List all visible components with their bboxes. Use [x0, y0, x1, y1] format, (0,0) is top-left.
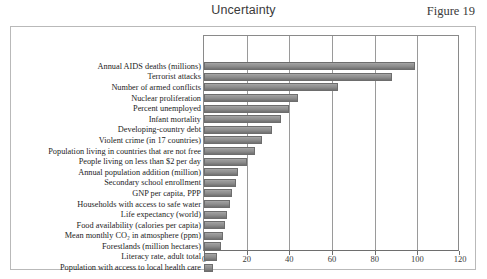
bar [204, 105, 289, 113]
bar-row: Terrorist attacks [11, 72, 477, 83]
bar-category-label: Life expectancy (world) [0, 210, 201, 219]
bar-category-label: Population living in countries that are … [0, 147, 201, 156]
bar-category-label: Secondary school enrollment [0, 178, 201, 187]
bar-row: Households with access to safe water [11, 199, 477, 210]
bar-category-label: Forestlands (million hectares) [0, 242, 201, 251]
bar [204, 168, 238, 176]
figure-number: Figure 19 [427, 4, 475, 19]
bar [204, 83, 338, 91]
chart-header: Uncertainty Figure 19 [0, 0, 487, 26]
bar-row: Mean monthly CO₂ in atmosphere (ppm) [11, 231, 477, 242]
bar [204, 211, 227, 219]
bar-category-label: Annual population addition (million) [0, 168, 201, 177]
bar-category-label: Literacy rate, adult total [0, 252, 201, 261]
bar-category-label: GNP per capita, PPP [0, 189, 201, 198]
bar-category-label: Number of armed conflicts [0, 83, 201, 92]
bar [204, 73, 392, 81]
bar [204, 264, 213, 272]
bar-row: Literacy rate, adult total [11, 252, 477, 263]
bar-category-label: Food availability (calories per capita) [0, 221, 201, 230]
bar-row: Food availability (calories per capita) [11, 220, 477, 231]
bar-row: Forestlands (million hectares) [11, 241, 477, 252]
bar-category-label: Annual AIDS deaths (millions) [0, 62, 201, 71]
bar [204, 147, 255, 155]
bar-row: Violent crime (in 17 countries) [11, 135, 477, 146]
bar-category-label: Mean monthly CO₂ in atmosphere (ppm) [0, 231, 201, 240]
chart-frame: 020406080100120 Annual AIDS deaths (mill… [10, 26, 476, 270]
bar [204, 158, 247, 166]
bar-category-label: Violent crime (in 17 countries) [0, 136, 201, 145]
bar [204, 62, 415, 70]
bar-row: Infant mortality [11, 114, 477, 125]
bar [204, 253, 217, 261]
page-title: Uncertainty [0, 3, 487, 17]
bar-row: Percent unemployed [11, 103, 477, 114]
bar [204, 242, 221, 250]
bar-row: Population with access to local health c… [11, 262, 477, 273]
bar-category-label: Nuclear proliferation [0, 94, 201, 103]
bar-row: GNP per capita, PPP [11, 188, 477, 199]
bar-row: People living on less than $2 per day [11, 156, 477, 167]
bar [204, 126, 272, 134]
bar [204, 115, 281, 123]
bar-category-label: Terrorist attacks [0, 72, 201, 81]
bar [204, 232, 223, 240]
bar-row: Annual population addition (million) [11, 167, 477, 178]
bar-row: Secondary school enrollment [11, 178, 477, 189]
bar-category-label: Percent unemployed [0, 104, 201, 113]
bar-category-label: Households with access to safe water [0, 200, 201, 209]
bar-row: Nuclear proliferation [11, 93, 477, 104]
bar [204, 94, 298, 102]
bar-category-label: Developing-country debt [0, 125, 201, 134]
bar [204, 221, 225, 229]
bar-rows: Annual AIDS deaths (millions)Terrorist a… [11, 61, 477, 273]
bar [204, 136, 262, 144]
bar-row: Number of armed conflicts [11, 82, 477, 93]
bar-category-label: Population with access to local health c… [0, 263, 201, 272]
bar [204, 189, 232, 197]
bar [204, 200, 230, 208]
bar-row: Developing-country debt [11, 125, 477, 136]
bar [204, 179, 236, 187]
bar-row: Life expectancy (world) [11, 209, 477, 220]
bar-category-label: Infant mortality [0, 115, 201, 124]
bar-row: Population living in countries that are … [11, 146, 477, 157]
bar-category-label: People living on less than $2 per day [0, 157, 201, 166]
bar-row: Annual AIDS deaths (millions) [11, 61, 477, 72]
